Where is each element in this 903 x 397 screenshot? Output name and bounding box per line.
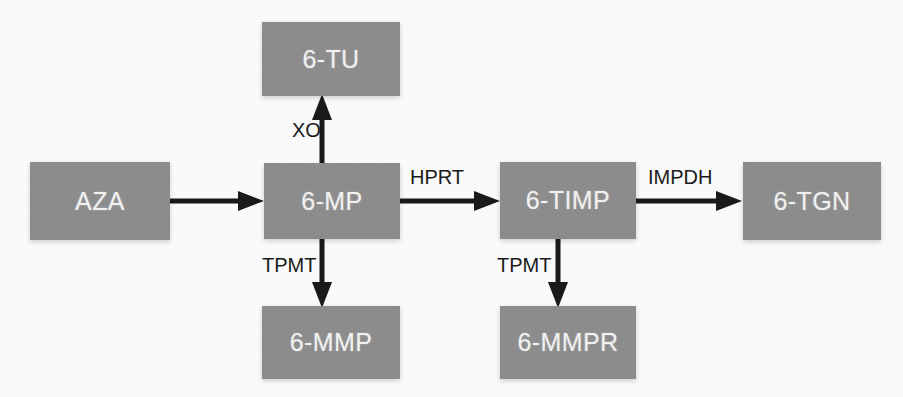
edge-label-tpmt-right: TPMT: [497, 254, 551, 277]
node-6mmp[interactable]: 6-MMP: [262, 306, 400, 379]
edge-6timp-to-6tgn: [634, 190, 746, 212]
node-label-aza: AZA: [75, 187, 125, 216]
pathway-diagram: XO HPRT IMPDH TPMT TPMT AZA 6-TU 6-MP 6-…: [0, 0, 903, 397]
node-aza[interactable]: AZA: [30, 162, 170, 240]
node-label-6mmp: 6-MMP: [290, 328, 373, 357]
node-6mp[interactable]: 6-MP: [264, 163, 400, 239]
edge-aza-to-6mp: [168, 190, 268, 212]
edge-label-hprt: HPRT: [410, 166, 464, 189]
node-6tu[interactable]: 6-TU: [262, 22, 400, 96]
node-label-6timp: 6-TIMP: [526, 186, 610, 215]
edge-6mp-to-6timp: [398, 190, 504, 212]
node-6tgn[interactable]: 6-TGN: [743, 162, 881, 240]
edge-label-xo: XO: [292, 119, 321, 142]
node-6timp[interactable]: 6-TIMP: [500, 162, 636, 239]
edge-label-tpmt-left: TPMT: [262, 254, 316, 277]
node-label-6tu: 6-TU: [302, 45, 359, 74]
edge-label-impdh: IMPDH: [648, 166, 712, 189]
node-label-6mp: 6-MP: [301, 187, 362, 216]
node-label-6mmpr: 6-MMPR: [517, 328, 618, 357]
node-label-6tgn: 6-TGN: [774, 187, 851, 216]
node-6mmpr[interactable]: 6-MMPR: [500, 306, 636, 379]
